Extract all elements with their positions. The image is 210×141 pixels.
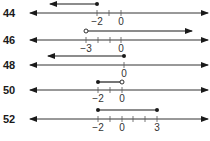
problem-44: 44 −2 0 xyxy=(3,2,208,27)
problem-number: 44 xyxy=(3,7,16,19)
closed-endpoint-dot xyxy=(122,54,126,58)
tick-label: 0 xyxy=(118,16,124,27)
problem-50: 50 −2 0 xyxy=(3,80,208,104)
tick-label: 0 xyxy=(118,43,124,54)
number-line-exercises: 44 −2 0 46 −3 0 48 0 50 xyxy=(0,0,210,141)
tick-label: −2 xyxy=(92,93,104,104)
problem-number: 48 xyxy=(3,59,15,71)
open-endpoint-dot xyxy=(84,29,88,33)
problem-number: 46 xyxy=(3,34,15,46)
problem-number: 52 xyxy=(3,113,15,125)
tick-label: 3 xyxy=(154,122,160,133)
tick-label: −2 xyxy=(92,122,104,133)
problem-52: 52 −2 0 3 xyxy=(3,108,208,133)
tick-label: −2 xyxy=(91,16,103,27)
closed-endpoint-dot xyxy=(155,108,159,112)
tick-label: −3 xyxy=(80,43,92,54)
problem-48: 48 0 xyxy=(3,54,208,79)
closed-endpoint-dot xyxy=(95,2,99,6)
tick-label: 0 xyxy=(119,93,125,104)
open-endpoint-dot xyxy=(120,80,124,84)
tick-label: 0 xyxy=(119,122,125,133)
closed-endpoint-dot xyxy=(96,108,100,112)
tick-label: 0 xyxy=(121,68,127,79)
problem-46: 46 −3 0 xyxy=(3,29,208,54)
closed-endpoint-dot xyxy=(96,80,100,84)
problem-number: 50 xyxy=(3,84,15,96)
